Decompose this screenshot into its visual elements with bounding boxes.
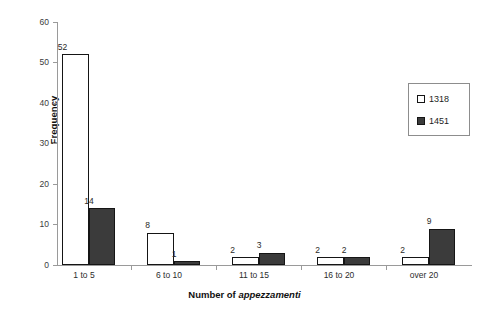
y-axis-tick-40: 40 [0,98,57,109]
bar-1318-over-20 [402,257,429,265]
bar-value-label: 2 [304,245,331,255]
bar-1451-1-to-5 [89,208,115,265]
x-axis-category-label-2: 6 to 10 [137,270,201,281]
bar-1451-16-to-20 [344,257,370,265]
bar-value-label: 52 [49,42,76,52]
y-axis-tick-label-10: 10 [40,219,49,230]
bar-value-label: 14 [76,196,102,206]
x-axis-category-label-3: 11 to 15 [222,270,286,281]
y-axis-tick-label-20: 20 [40,179,49,190]
y-axis-tick-30: 30 [0,138,57,149]
y-axis-tick-10: 10 [0,219,57,230]
bar-value-label: 1 [161,249,187,259]
bar-1318-11-to-15 [232,257,259,265]
x-axis-category-label-1: 1 to 5 [52,270,116,281]
y-axis-tick-label-40: 40 [40,98,49,109]
bar-value-label: 8 [134,220,161,230]
bar-1318-16-to-20 [317,257,344,265]
bar-value-label: 3 [246,240,272,250]
bar-value-label: 9 [416,216,442,226]
legend-item-1451: 1451 [417,115,449,127]
x-axis-tick-mark [301,266,302,270]
bar-value-label: 2 [389,245,416,255]
x-axis-tick-mark [216,266,217,270]
bar-value-label: 2 [219,245,246,255]
bar-chart: Frequency 60 50 40 30 20 10 0 [0,0,489,313]
x-axis-tick-mark [386,266,387,270]
y-axis-tick-label-0: 0 [44,260,49,271]
y-axis-tick-20: 20 [0,179,57,190]
legend-item-1318: 1318 [417,93,449,105]
y-axis-tick-label-50: 50 [40,57,49,68]
x-axis-title-emphasis: appezzamenti [238,289,300,300]
y-axis-tick-60: 60 [0,17,57,28]
x-axis-category-label-4: 16 to 20 [307,270,371,281]
y-axis-tick-50: 50 [0,57,57,68]
x-axis-line [57,265,472,266]
plot-area [57,22,472,265]
x-axis-tick-mark [131,266,132,270]
y-axis-tick-label-30: 30 [40,138,49,149]
legend-label: 1318 [429,94,449,104]
x-axis-category-label-5: over 20 [392,270,456,281]
y-axis-tick-0: 0 [0,260,57,271]
bar-value-label: 2 [331,245,357,255]
x-axis-title: Number of appezzamenti [0,289,489,300]
bar-1451-6-to-10 [174,261,200,265]
open-square-swatch-icon [417,95,425,103]
bar-1451-11-to-15 [259,253,285,265]
y-axis-tick-label-60: 60 [40,17,49,28]
filled-square-swatch-icon [417,117,425,125]
bar-1318-1-to-5 [62,54,89,265]
bar-1451-over-20 [429,229,455,265]
legend: 1318 1451 [408,83,470,136]
x-axis-title-prefix: Number of [188,289,238,300]
legend-label: 1451 [429,116,449,126]
